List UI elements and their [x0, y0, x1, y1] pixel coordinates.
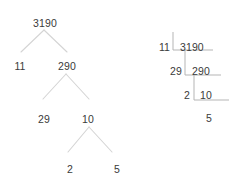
- tree-node-29: 29: [38, 114, 50, 125]
- tree-node-290: 290: [58, 61, 76, 72]
- tree-branch-root-to-l1b: [44, 30, 67, 52]
- ladder-dividend-10: 10: [200, 90, 212, 101]
- tree-branch-l2b-to-l3b: [89, 127, 112, 152]
- tree-branch-l2b-to-l3a: [68, 127, 89, 152]
- ladder-divisor-2: 2: [184, 90, 190, 101]
- tree-branch-l1b-to-l2a: [43, 74, 66, 99]
- tree-node-5: 5: [114, 164, 120, 175]
- ladder-divisor-11: 11: [159, 42, 170, 53]
- tree-node-3190: 3190: [33, 18, 57, 29]
- tree-node-10: 10: [82, 114, 94, 125]
- tree-node-2: 2: [67, 164, 73, 175]
- ladder-dividend-290: 290: [192, 66, 210, 77]
- figure-canvas: 319011290291025 113190292902105: [0, 0, 248, 182]
- ladder-final-quotient: 5: [206, 113, 212, 124]
- tree-node-11: 11: [14, 61, 25, 72]
- tree-branch-group: [21, 30, 112, 152]
- ladder-divisor-29: 29: [170, 66, 182, 77]
- tree-branch-l1b-to-l2b: [66, 74, 89, 99]
- ladder-dividend-3190: 3190: [180, 42, 204, 53]
- tree-branch-root-to-l1a: [21, 30, 44, 52]
